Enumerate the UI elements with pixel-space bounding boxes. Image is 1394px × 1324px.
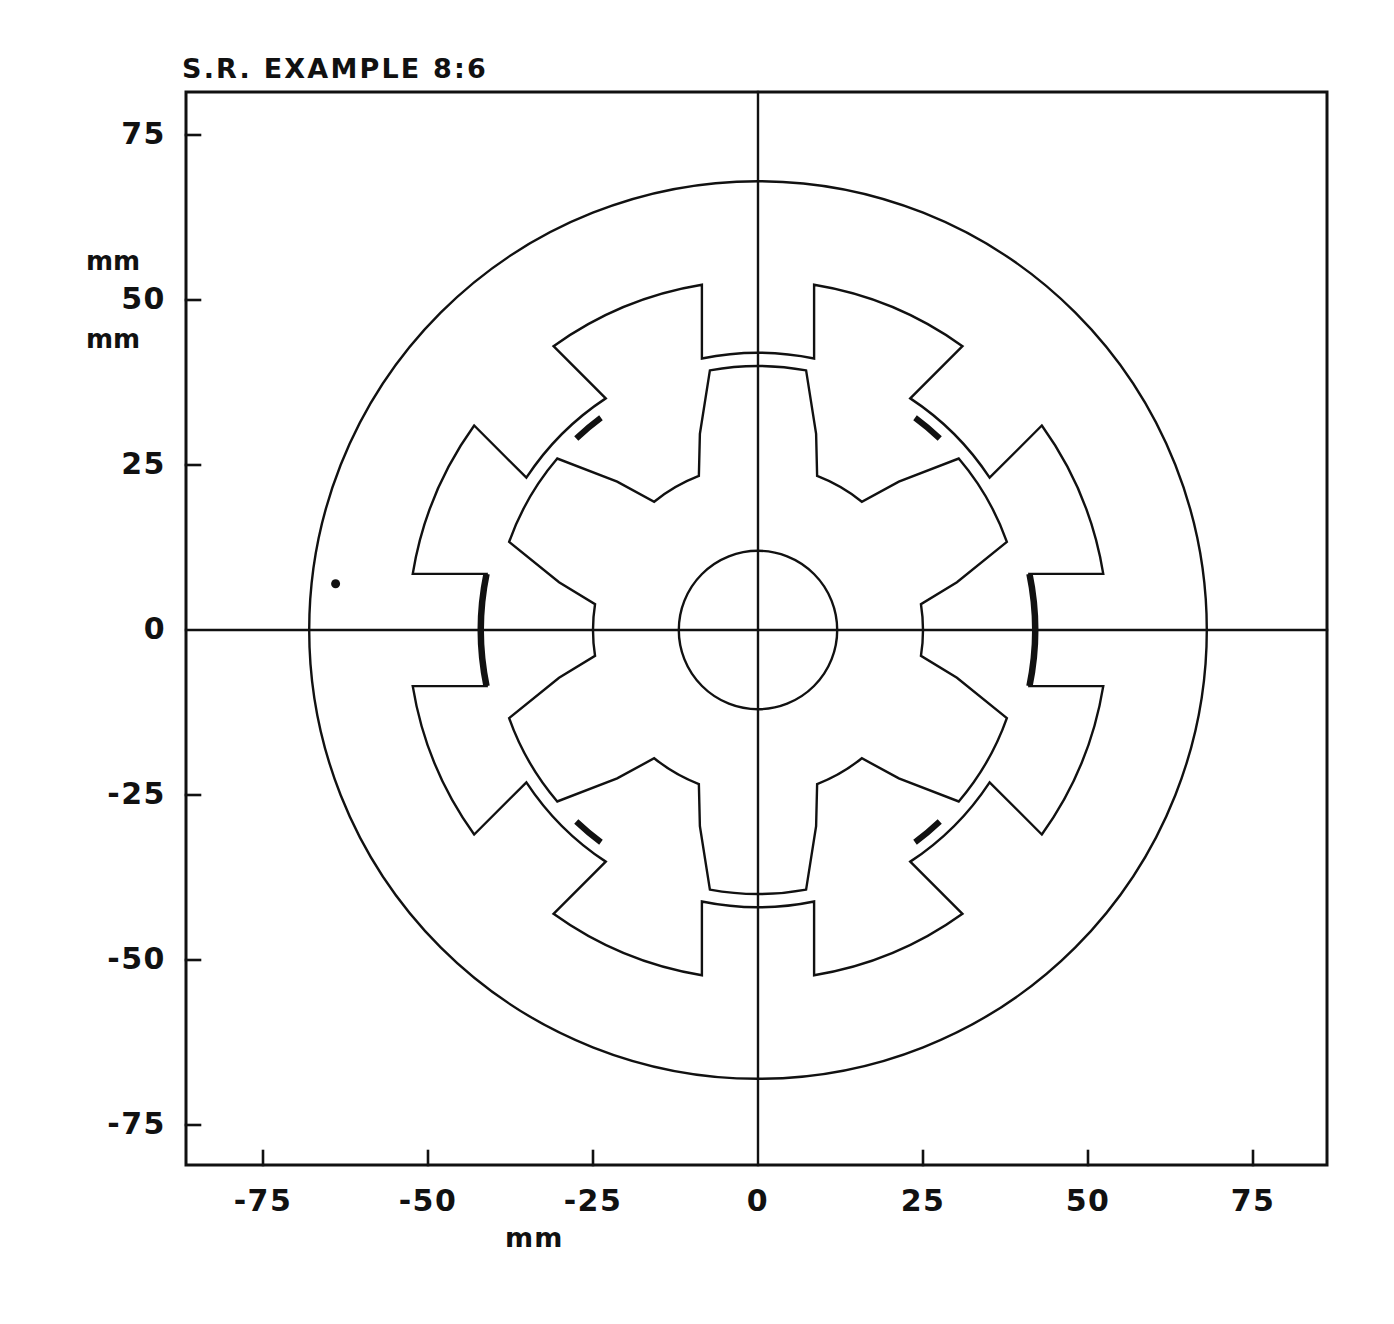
page-title: S.R. EXAMPLE 8:6 [182,53,488,84]
reference-point-marker [331,579,340,588]
thick-rotor-arc [576,418,601,439]
y-axis-label-line2: mm [86,326,140,352]
screenshot-page: S.R. EXAMPLE 8:6 mm mm mm -75-50-2502550… [0,0,1394,1324]
y-tick-label: -75 [44,1106,166,1141]
motor-cross-section-plot [0,0,1394,1324]
x-tick-label: 75 [1198,1183,1308,1218]
thick-rotor-arc [576,821,601,842]
x-tick-label: 50 [1033,1183,1143,1218]
thick-rotor-arc [915,821,940,842]
x-tick-label: 0 [703,1183,813,1218]
x-tick-label: -75 [208,1183,318,1218]
y-tick-label: 50 [44,281,166,316]
y-tick-label: -50 [44,941,166,976]
x-tick-label: -50 [373,1183,483,1218]
x-axis-label: mm [505,1222,563,1253]
y-tick-label: 25 [44,446,166,481]
y-tick-label: -25 [44,776,166,811]
thick-rotor-arc [915,418,940,439]
y-axis-label-line1: mm [86,248,140,274]
x-tick-label: 25 [868,1183,978,1218]
plot-frame [186,92,1327,1165]
y-tick-label: 75 [44,116,166,151]
x-tick-label: -25 [538,1183,648,1218]
y-tick-label: 0 [44,611,166,646]
